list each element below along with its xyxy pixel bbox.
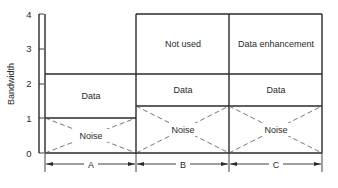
column-c-data-enhancement-label: Data enhancement [238,39,315,49]
y-tick-1: 1 [26,113,31,124]
column-c-data-label: Data [266,85,285,95]
column-a-noise-label: Noise [79,131,102,141]
column-b-noise-label: Noise [171,125,194,135]
column-a: Noise Data [45,14,136,153]
dimension-label-b: B [180,160,186,170]
column-c-noise-label: Noise [264,125,287,135]
y-tick-2: 2 [26,78,31,89]
dimension-label-c: C [273,160,280,170]
y-tick-3: 3 [26,43,31,54]
dimension-label-a: A [88,160,94,170]
y-axis-label: Bandwidth [6,63,16,105]
bandwidth-diagram: Bandwidth 4 3 2 1 0 Noise Data Noise D [0,0,338,188]
y-tick-4: 4 [26,9,31,20]
column-c: Noise Data Data enhancement [229,14,322,153]
column-a-data-label: Data [81,91,100,101]
column-b: Noise Data Not used [136,14,229,153]
column-b-not-used-label: Not used [165,39,201,49]
y-tick-0: 0 [26,148,31,159]
y-axis [39,14,44,153]
column-b-data-label: Data [173,85,192,95]
